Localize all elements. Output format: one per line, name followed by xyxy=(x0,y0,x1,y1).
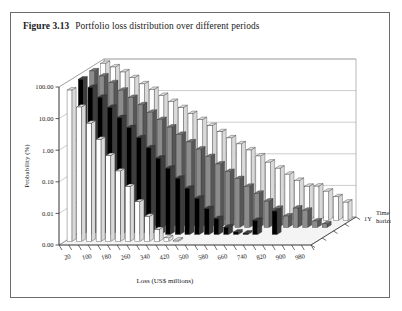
svg-text:420: 420 xyxy=(159,252,171,261)
svg-text:horizon: horizon xyxy=(376,217,391,224)
legend-item-2y[interactable]: 2Y xyxy=(185,68,203,76)
svg-text:500: 500 xyxy=(178,252,190,261)
legend-item-4y[interactable]: 4Y xyxy=(235,68,253,76)
svg-text:0.01: 0.01 xyxy=(42,210,54,217)
legend-label-2y: 2Y xyxy=(195,68,203,75)
svg-text:1Y: 1Y xyxy=(364,215,372,222)
svg-text:Probability (%): Probability (%) xyxy=(23,144,31,188)
svg-text:Time: Time xyxy=(376,209,389,216)
svg-text:580: 580 xyxy=(197,252,209,261)
svg-text:100.00: 100.00 xyxy=(35,83,54,90)
figure-caption: Figure 3.13Portfolio loss distribution o… xyxy=(23,21,259,31)
legend-item-3y[interactable]: 3Y xyxy=(210,68,228,76)
legend-label-1y: 1Y xyxy=(170,68,178,75)
svg-text:180: 180 xyxy=(100,252,112,261)
svg-text:260: 260 xyxy=(120,252,132,261)
legend-swatch-2y xyxy=(185,68,193,76)
svg-text:20: 20 xyxy=(63,252,72,260)
svg-text:0.10: 0.10 xyxy=(42,178,54,185)
legend-item-1y[interactable]: 1Y xyxy=(160,68,178,76)
legend-swatch-4y xyxy=(235,68,243,76)
legend-label-4y: 4Y xyxy=(245,68,253,75)
svg-text:1.00: 1.00 xyxy=(42,147,54,154)
legend-label-3y: 3Y xyxy=(220,68,228,75)
chart-legend: 1Y 2Y 3Y 4Y xyxy=(155,65,258,79)
svg-text:900: 900 xyxy=(275,252,287,261)
svg-text:340: 340 xyxy=(139,252,151,261)
svg-text:Loss (US$ millions): Loss (US$ millions) xyxy=(136,277,193,285)
svg-text:0.00: 0.00 xyxy=(42,241,54,248)
legend-swatch-1y xyxy=(160,68,168,76)
figure-frame: Figure 3.13Portfolio loss distribution o… xyxy=(10,12,390,298)
svg-text:980: 980 xyxy=(294,252,306,261)
figure-number: Figure 3.13 xyxy=(23,21,69,31)
svg-text:740: 740 xyxy=(236,252,248,261)
legend-swatch-3y xyxy=(210,68,218,76)
figure-title: Portfolio loss distribution over differe… xyxy=(75,21,259,31)
svg-text:660: 660 xyxy=(217,252,229,261)
chart-plot-area: 100.0010.001.000.100.010.00Probability (… xyxy=(11,13,391,299)
svg-text:820: 820 xyxy=(256,252,268,261)
svg-text:10.00: 10.00 xyxy=(39,115,55,122)
svg-text:100: 100 xyxy=(81,252,93,261)
bar-chart-3d: 100.0010.001.000.100.010.00Probability (… xyxy=(11,13,391,299)
